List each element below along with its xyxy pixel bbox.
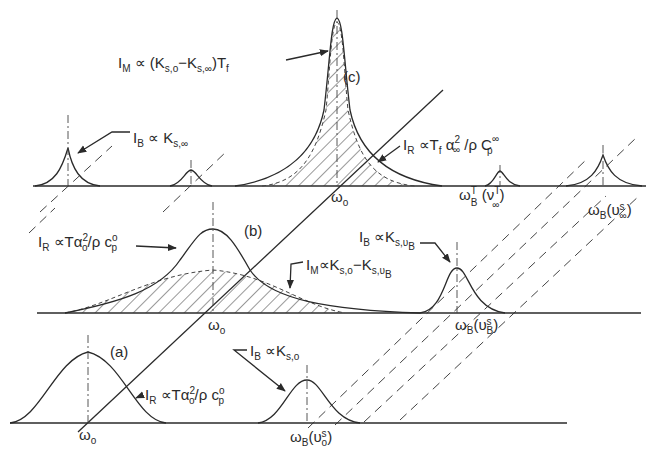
brillouin-peak-c-right1 xyxy=(485,171,520,186)
label-c-ib: IB ∝ Ks,∞ xyxy=(133,129,188,149)
brillouin-track-4 xyxy=(400,195,640,420)
label-c-im: IM ∝ (Ks,o−Ks,∞)Tf xyxy=(118,54,229,74)
label-c-ir: IR ∝Tf α2∞ /ρ C∞p xyxy=(403,133,499,156)
label-b-omega0: ωo xyxy=(208,316,226,336)
panel-label-c: (c) xyxy=(343,68,361,85)
label-a-ib: IB ∝Ks,o xyxy=(250,342,300,362)
label-a-omega0: ωo xyxy=(79,426,97,446)
panel-b: (b) IR ∝Tα2o/ρ cop IB ∝Ks,υB IM∝Ks,o−Ks,… xyxy=(37,202,641,336)
arrow-b-ir xyxy=(136,246,176,248)
dash-left-2 xyxy=(163,150,228,212)
brillouin-peak-c-right2 xyxy=(566,155,642,186)
arrow-c-ib xyxy=(78,132,130,153)
hatched-molecular-peak-c xyxy=(262,22,415,186)
dash-left-3 xyxy=(29,208,55,233)
panel-label-b: (b) xyxy=(244,222,262,239)
label-b-ib: IB ∝Ks,υB xyxy=(359,228,415,252)
label-b-ir: IR ∝Tα2o/ρ cop xyxy=(38,232,118,253)
label-a-ir: IR ∝Tα2o/ρ cop xyxy=(145,385,225,406)
brillouin-track-1 xyxy=(308,158,588,428)
label-c-omegaB-s: ωB(υs∞) xyxy=(588,201,632,221)
panel-c: (c) IM ∝ (Ks,o−Ks,∞)Tf IB ∝ Ks,∞ IR ∝Tf … xyxy=(33,10,646,221)
label-b-im: IM∝Ks,o−Ks,υB xyxy=(306,256,392,280)
hatched-molecular-peak-b xyxy=(65,270,345,313)
label-a-omegaB: ωB(υso) xyxy=(290,428,332,448)
label-c-omegaB-T: ωTB (νT∞) xyxy=(459,185,504,210)
label-c-omega0: ωo xyxy=(331,188,349,208)
arrow-a-ir xyxy=(136,395,143,398)
brillouin-peak-c-left1 xyxy=(35,148,100,186)
spectrum-diagram: (c) IM ∝ (Ks,o−Ks,∞)Tf IB ∝ Ks,∞ IR ∝Tf … xyxy=(0,0,653,459)
arrow-c-im xyxy=(286,51,328,60)
panel-label-a: (a) xyxy=(110,343,128,360)
arrow-b-im xyxy=(290,262,303,288)
panel-a: (a) IR ∝Tα2o/ρ cop IB ∝Ks,o ωo ωB(υso) xyxy=(10,335,567,448)
brillouin-track-3 xyxy=(364,196,606,422)
arrow-b-ib xyxy=(420,243,450,262)
label-b-omegaB: ωB(υsB) xyxy=(455,316,498,336)
dash-left-1 xyxy=(40,146,112,212)
brillouin-peak-a xyxy=(258,380,360,423)
